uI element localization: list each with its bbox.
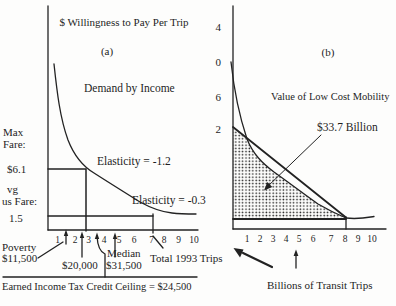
x-tick-b-9: 9 — [356, 234, 361, 244]
median-value: $31,500 — [106, 259, 142, 271]
northwest-arrow-shaft — [243, 253, 272, 267]
x-tick-b-10: 10 — [367, 234, 377, 244]
avg-fare-value: 1.5 — [9, 212, 23, 224]
panel-a-title: $ Willingness to Pay Per Trip — [55, 16, 193, 28]
x-tick-b-3: 3 — [271, 234, 276, 244]
income-20k-up-arrowhead-icon — [80, 232, 84, 239]
x-tick-a-6: 6 — [132, 235, 137, 245]
billion-connector-line — [266, 135, 321, 188]
x-tick-a-10: 10 — [189, 235, 199, 245]
x-tick-a-8: 8 — [162, 235, 167, 245]
northwest-arrowhead-icon — [234, 248, 244, 258]
elasticity-upper-label: Elasticity = -1.2 — [97, 155, 171, 168]
eitc-up-arrowhead-icon — [95, 233, 99, 240]
x-tick-b-5: 5 — [297, 234, 302, 244]
x-tick-b-2: 2 — [258, 234, 263, 244]
poverty-value: $11,500 — [2, 252, 37, 264]
x-tick-a-3: 3 — [86, 235, 91, 245]
x-tick-a-7: 7 — [149, 235, 154, 245]
panel-b-plot — [231, 6, 386, 268]
y-tick-b-2: 6 — [203, 91, 221, 103]
x-tick-b-4: 4 — [284, 234, 289, 244]
y-tick-b-1: 0 — [203, 56, 221, 68]
x-tick-a-5: 5 — [117, 235, 122, 245]
avg-fare-word1: vg — [7, 183, 18, 195]
income-20k-label: $20,000 — [62, 259, 98, 271]
elasticity-lower-label: Elasticity = -0.3 — [132, 194, 206, 207]
max-fare-word1: Max — [3, 126, 23, 138]
up-arrow-b-head-icon — [294, 250, 299, 257]
x-tick-a-2: 2 — [73, 235, 78, 245]
x-tick-b-8: 8 — [343, 234, 348, 244]
panel-a-label: (a) — [92, 45, 122, 57]
max-fare-word2: Fare: — [3, 138, 26, 150]
y-tick-b-3: 2 — [203, 123, 221, 135]
max-fare-value: $6.1 — [7, 163, 26, 175]
median-word: Median — [107, 247, 141, 259]
x-tick-b-6: 6 — [311, 234, 316, 244]
y-tick-b-0: 4 — [203, 21, 221, 33]
x-tick-a-1: 1 — [55, 235, 60, 245]
x-tick-b-7: 7 — [329, 234, 334, 244]
panel-b-label: (b) — [313, 46, 343, 58]
max-fare-reference-lines — [48, 169, 86, 231]
scanned-figure: $ Willingness to Pay Per Trip (a) Demand… — [0, 0, 396, 306]
avg-fare-word2: us Fare: — [2, 195, 37, 207]
x-tick-b-1: 1 — [245, 234, 250, 244]
total-trips-label: Total 1993 Trips — [150, 252, 223, 264]
x-tick-a-4: 4 — [102, 235, 107, 245]
area-value-label: $33.7 Billion — [317, 121, 378, 134]
demand-curve-label: Demand by Income — [84, 82, 175, 95]
x-axis-title-b: Billions of Transit Trips — [267, 279, 372, 291]
panel-b-title: Value of Low Cost Mobility — [271, 91, 389, 103]
eitc-note: Earned Income Tax Credit Ceiling = $24,5… — [2, 281, 192, 293]
x-tick-a-9: 9 — [176, 235, 181, 245]
